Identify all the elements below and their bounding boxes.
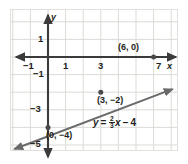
point-label-y-intercept: (0, −4) xyxy=(46,131,72,140)
y-tick-label-neg1: −1 xyxy=(33,69,44,79)
equation-fraction: 2 3 xyxy=(109,116,115,131)
y-tick-label-1: 1 xyxy=(38,34,43,44)
y-tick-label-neg5: −5 xyxy=(30,139,41,149)
equation-variable: x xyxy=(115,118,121,128)
equation-lhs: y xyxy=(93,118,99,128)
point-label-x-intercept: (6, 0) xyxy=(118,43,139,52)
graph-canvas xyxy=(0,0,188,164)
point-midpoint xyxy=(98,90,103,95)
equation-denominator: 3 xyxy=(109,122,115,130)
equation-numerator: 2 xyxy=(109,116,115,123)
equation-equals: = xyxy=(101,118,107,128)
x-tick-label-7: 7 xyxy=(156,61,161,71)
y-axis-label: y xyxy=(51,13,56,22)
y-tick-label-neg3: −3 xyxy=(30,104,41,114)
point-x-intercept xyxy=(151,55,156,60)
x-axis-label: x xyxy=(167,62,172,71)
equation-label: y = 2 3 x − 4 xyxy=(93,116,136,131)
x-tick-label-3: 3 xyxy=(98,61,103,71)
equation-operator: − xyxy=(123,118,129,128)
x-tick-label-1: 1 xyxy=(63,61,68,71)
coordinate-graph-figure: y x −1 1 3 7 1 −1 −3 −5 (6, 0) (3, −2) (… xyxy=(0,0,188,164)
equation-constant: 4 xyxy=(130,118,136,128)
point-label-midpoint: (3, −2) xyxy=(97,96,123,105)
